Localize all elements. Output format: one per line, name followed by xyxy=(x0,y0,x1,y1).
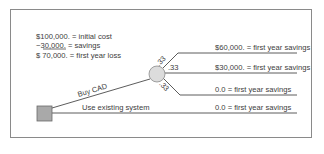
cost-line-savings: −30,000. = savings xyxy=(36,42,100,50)
outcome-value-existing: 0.0 = first year savings xyxy=(215,104,291,112)
cost-line-loss: $ 70,000. = first year loss xyxy=(36,52,121,60)
decision-node-square xyxy=(37,106,52,121)
probability-label-2: .33 xyxy=(168,64,179,72)
cost-amount: −30,000. xyxy=(36,41,66,50)
cost-amount: $100,000. xyxy=(36,32,70,41)
decision-tree-lines xyxy=(0,0,324,154)
outcome-value-3: 0.0 = first year savings xyxy=(215,86,291,94)
cost-line-initial: $100,000. = initial cost xyxy=(36,33,112,41)
cost-label: = initial cost xyxy=(72,32,112,41)
outcome-value-2: $30,000. = first year savings xyxy=(215,64,310,72)
cost-label: = first year loss xyxy=(70,51,121,60)
outcome-value-1: $60,000. = first year savings xyxy=(215,44,310,52)
cost-amount: $ 70,000. xyxy=(36,51,68,60)
use-existing-label: Use existing system xyxy=(82,104,150,112)
cost-label: = savings xyxy=(68,41,100,50)
